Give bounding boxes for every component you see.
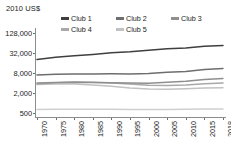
- legend-label: Club 1: [71, 13, 92, 24]
- x-axis-tick-label: 1975: [59, 121, 68, 137]
- legend-swatch-icon: [61, 17, 69, 19]
- x-axis-tick-label: 2015: [208, 121, 217, 137]
- y-axis-tick-label: 500: [20, 109, 32, 118]
- x-axis-tick-label: 1970: [40, 121, 49, 137]
- x-axis-tick-label: 2018: [226, 121, 231, 137]
- legend-swatch-icon: [171, 17, 179, 19]
- y-axis-tick-label: 128,000: [5, 29, 32, 38]
- x-axis-tick-mark: [186, 118, 187, 120]
- plot-area: [36, 28, 226, 118]
- x-axis-tick-mark: [111, 118, 112, 120]
- x-axis-tick-mark: [56, 118, 57, 120]
- legend-item[interactable]: Club 3: [171, 13, 226, 24]
- y-axis-title: 2010 US$: [6, 4, 40, 13]
- chart-container: 2010 US$ Club 1Club 2Club 3Club 4Club 5 …: [0, 0, 231, 149]
- series-lines: [36, 28, 226, 118]
- x-axis-tick-label: 1995: [133, 121, 142, 137]
- x-axis-tick-mark: [74, 118, 75, 120]
- series-line-club-1: [37, 45, 223, 59]
- x-axis-tick-mark: [204, 118, 205, 120]
- x-axis-tick-label: 1990: [115, 121, 124, 137]
- x-axis-tick-mark: [167, 118, 168, 120]
- legend-label: Club 3: [181, 13, 202, 24]
- x-axis-tick-mark: [37, 118, 38, 120]
- y-axis-tick-label: 8,000: [14, 69, 33, 78]
- legend-label: Club 2: [126, 13, 147, 24]
- x-axis-tick-label: 2000: [152, 121, 161, 137]
- series-line-club-2: [37, 68, 223, 75]
- y-axis: 5002,0008,00032,000128,000: [0, 28, 36, 118]
- legend-item[interactable]: Club 2: [116, 13, 171, 24]
- x-axis-tick-mark: [149, 118, 150, 120]
- x-axis-tick-label: 2010: [189, 121, 198, 137]
- x-axis: 1970197519801985199019952000200520102015…: [36, 118, 226, 149]
- legend-swatch-icon: [116, 17, 124, 19]
- y-axis-tick-label: 32,000: [9, 49, 32, 58]
- y-axis-tick-label: 2,000: [14, 89, 33, 98]
- x-axis-tick-label: 2005: [170, 121, 179, 137]
- x-axis-tick-label: 1985: [96, 121, 105, 137]
- x-axis-tick-mark: [93, 118, 94, 120]
- x-axis-tick-mark: [130, 118, 131, 120]
- series-line-baseline: [37, 109, 223, 110]
- series-line-club-3: [37, 78, 223, 83]
- x-axis-tick-mark: [223, 118, 224, 120]
- legend-item[interactable]: Club 1: [61, 13, 116, 24]
- x-axis-tick-label: 1980: [77, 121, 86, 137]
